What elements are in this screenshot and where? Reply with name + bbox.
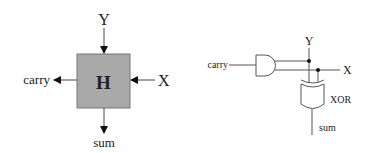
- gate-carry-label: carry: [207, 59, 228, 70]
- half-adder-figure: H Y X carry sum Y X: [0, 0, 368, 153]
- carry-label: carry: [23, 72, 50, 87]
- gate-sum-label: sum: [319, 122, 336, 133]
- xor-label: XOR: [330, 94, 351, 105]
- y-label: Y: [98, 11, 110, 28]
- and-gate: [256, 55, 276, 76]
- h-box-label: H: [96, 72, 111, 93]
- sum-label: sum: [93, 135, 115, 150]
- junction-x: [316, 68, 320, 72]
- gate-x-label: X: [343, 63, 352, 77]
- junction-y: [307, 59, 311, 63]
- xor-gate: [301, 84, 324, 109]
- half-adder-block: H Y X carry sum: [23, 11, 170, 150]
- xor-gate-back-curve: [301, 80, 324, 83]
- gate-y-label: Y: [305, 34, 314, 48]
- x-label: X: [158, 72, 170, 89]
